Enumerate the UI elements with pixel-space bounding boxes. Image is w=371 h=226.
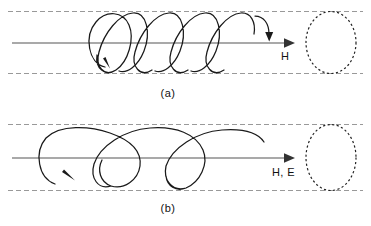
field-axis-arrowhead-a [284, 38, 295, 48]
field-label-b: H, E [272, 166, 295, 178]
panel-b: H, E (b) [8, 125, 363, 215]
dashed-cross-section-ellipse-a [306, 12, 356, 74]
panel-caption-a: (a) [161, 87, 176, 99]
helix-rotation-arrowhead-b [62, 170, 75, 181]
field-axis-arrowhead-b [284, 153, 295, 163]
field-label-a: H [281, 50, 289, 62]
dashed-cross-section-ellipse-b [306, 125, 356, 191]
panel-a: H (a) [8, 12, 363, 100]
helix-exit-curve-a [255, 16, 269, 34]
field-line-helix-diagram: H (a) H, E (b) [0, 0, 371, 226]
figure-container: H (a) H, E (b) [0, 0, 371, 226]
panel-caption-b: (b) [161, 202, 176, 214]
helix-exit-arrowhead-a [265, 32, 273, 42]
